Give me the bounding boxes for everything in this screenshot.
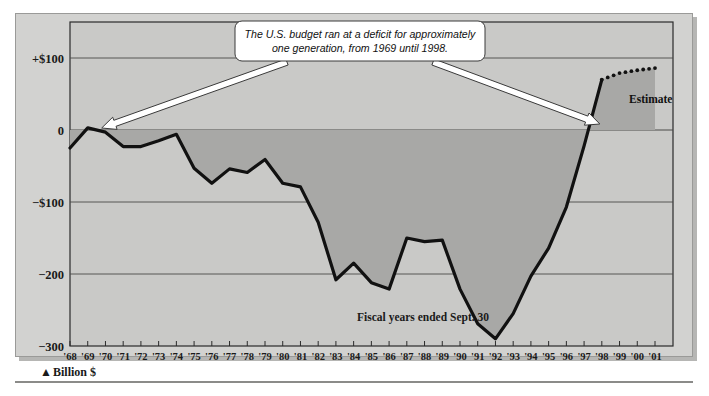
- x-tick-label: '83: [329, 351, 342, 362]
- callout-line-2: one generation, from 1969 until 1998.: [272, 42, 448, 54]
- x-tick-label: '88: [418, 351, 431, 362]
- x-tick-label: '98: [595, 351, 608, 362]
- y-tick-label: −$100: [32, 196, 64, 210]
- x-tick-label: '95: [542, 351, 555, 362]
- x-tick-label: '69: [81, 351, 94, 362]
- estimate-dot: [629, 69, 633, 73]
- estimate-dot: [641, 68, 645, 72]
- x-tick-label: '00: [631, 351, 644, 362]
- footnote-label: Fiscal years ended Sept. 30: [357, 311, 489, 324]
- y-tick-label: −300: [38, 340, 64, 354]
- budget-deficit-figure: +$1000−$100−200−300 '68'69'70'71'72'73'7…: [0, 0, 709, 396]
- x-tick-label: '01: [648, 351, 661, 362]
- estimate-dot: [600, 78, 604, 82]
- x-tick-label: '71: [116, 351, 129, 362]
- x-tick-label: '74: [170, 351, 184, 362]
- estimate-dot: [647, 67, 651, 71]
- x-tick-label: '77: [223, 351, 236, 362]
- x-tick-label: '79: [258, 351, 271, 362]
- x-tick-label: '97: [577, 351, 590, 362]
- callout-box: [235, 21, 485, 61]
- estimate-label: Estimate: [629, 93, 672, 105]
- estimate-dot: [618, 71, 622, 75]
- x-tick-label: '89: [436, 351, 449, 362]
- x-tick-label: '70: [99, 351, 112, 362]
- y-axis-labels: +$1000−$100−200−300: [32, 52, 64, 354]
- y-tick-label: −200: [38, 268, 64, 282]
- callout-annotation: The U.S. budget ran at a deficit for app…: [235, 21, 485, 61]
- x-tick-label: '76: [205, 351, 218, 362]
- x-axis-labels: '68'69'70'71'72'73'74'75'76'77'78'79'80'…: [63, 351, 661, 362]
- estimate-dot: [606, 76, 610, 80]
- x-tick-label: '92: [489, 351, 502, 362]
- x-tick-label: '85: [365, 351, 378, 362]
- unit-label: Billion $: [53, 365, 96, 379]
- x-tick-label: '93: [506, 351, 519, 362]
- y-tick-label: 0: [58, 124, 64, 138]
- x-tick-label: '96: [560, 351, 573, 362]
- chart-svg: +$1000−$100−200−300 '68'69'70'71'72'73'7…: [0, 0, 709, 396]
- x-tick-label: '73: [152, 351, 165, 362]
- x-tick-label: '90: [453, 351, 466, 362]
- x-tick-label: '87: [400, 351, 413, 362]
- y-tick-label: +$100: [32, 52, 64, 66]
- x-tick-label: '80: [276, 351, 289, 362]
- x-tick-label: '75: [187, 351, 200, 362]
- callout-line-1: The U.S. budget ran at a deficit for app…: [245, 28, 477, 40]
- x-tick-label: '94: [524, 351, 538, 362]
- x-tick-label: '78: [241, 351, 254, 362]
- estimate-dot: [635, 68, 639, 72]
- x-tick-label: '86: [382, 351, 395, 362]
- x-tick-label: '99: [613, 351, 626, 362]
- x-tick-label: '81: [294, 351, 307, 362]
- unit-marker-icon: ▲: [40, 365, 52, 379]
- x-tick-label: '84: [347, 351, 361, 362]
- x-tick-label: '72: [134, 351, 147, 362]
- estimate-dot: [612, 73, 616, 77]
- estimate-dot: [653, 66, 657, 70]
- estimate-dot: [624, 70, 628, 74]
- x-tick-label: '82: [311, 351, 324, 362]
- x-tick-label: '91: [471, 351, 484, 362]
- x-tick-label: '68: [63, 351, 76, 362]
